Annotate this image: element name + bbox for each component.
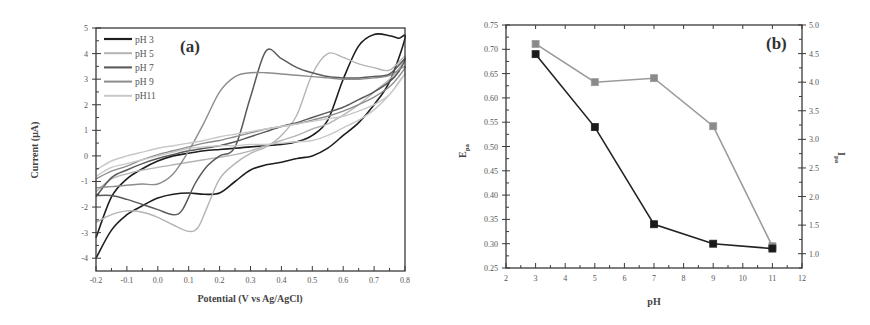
y-tick-label-left: 0.30 [484, 240, 498, 249]
data-point-marker [532, 40, 539, 47]
y-tick-label-left: 0.50 [484, 143, 498, 152]
x-tick-label: 5 [593, 274, 597, 283]
y-axis-ticks: -4-3-2-1012345 [81, 24, 101, 263]
y-tick-label: 2 [84, 101, 88, 110]
y-tick-label: 3 [84, 75, 88, 84]
y-tick-label: 4 [84, 50, 88, 59]
x-tick-label: 0.0 [153, 276, 163, 285]
x-tick-label: 0.2 [215, 276, 225, 285]
y-tick-label-left: 0.75 [484, 21, 498, 30]
x-tick-label: 0.5 [307, 276, 317, 285]
x-axis-ticks: -0.2-0.10.00.10.20.30.40.50.60.70.8 [90, 266, 410, 285]
x-tick-label: -0.1 [121, 276, 134, 285]
svg-text:pH 5: pH 5 [135, 49, 154, 59]
y-tick-label: 5 [84, 24, 88, 33]
y-tick-label-left: 0.60 [484, 94, 498, 103]
legend: pH 3pH 5pH 7pH 9pH11 [104, 35, 156, 102]
data-point-marker [532, 51, 539, 58]
y-tick-label-left: 0.55 [484, 118, 498, 127]
y-tick-label-right: 1.5 [809, 221, 819, 230]
svg-text:pH11: pH11 [135, 91, 156, 101]
data-point-marker [710, 240, 717, 247]
legend-item: pH 5 [104, 49, 154, 59]
y-axis-right-ticks: 1.01.52.02.53.03.54.04.55.0 [798, 21, 819, 268]
x-tick-label: 10 [739, 274, 747, 283]
y-tick-label-right: 4.0 [809, 78, 819, 87]
x-tick-label: 0.6 [338, 276, 348, 285]
x-tick-label: 9 [711, 274, 715, 283]
data-lines [532, 40, 776, 252]
y-tick-label-left: 0.35 [484, 215, 498, 224]
x-tick-label: 3 [534, 274, 538, 283]
x-tick-label: 0.8 [400, 276, 410, 285]
legend-item: pH11 [104, 91, 156, 101]
x-tick-label: 0.7 [369, 276, 379, 285]
data-point-marker [651, 221, 658, 228]
legend-item: pH 7 [104, 63, 154, 73]
y-tick-label-right: 2.5 [809, 164, 819, 173]
y-tick-label-right: 4.5 [809, 50, 819, 59]
x-tick-label: 0.4 [276, 276, 286, 285]
y-tick-label-right: 3.0 [809, 135, 819, 144]
legend-item: pH 3 [104, 35, 154, 45]
y-tick-label: -4 [81, 254, 88, 263]
y-axis-right-title: Ipa [833, 152, 847, 164]
y-tick-label-left: 0.25 [484, 264, 498, 273]
x-axis-ticks: 23456789101112 [504, 25, 806, 283]
cv-curve-ph11 [96, 74, 405, 177]
x-tick-label: 0.3 [246, 276, 256, 285]
y-tick-label-right: 5.0 [809, 21, 819, 30]
y-tick-label: -2 [81, 203, 88, 212]
y-tick-label-right: 3.5 [809, 107, 819, 116]
y-tick-label-right: 2.0 [809, 193, 819, 202]
line-i-pa [536, 44, 773, 246]
svg-text:pH 3: pH 3 [135, 35, 154, 45]
y-axis-title: Current (μA) [29, 122, 41, 179]
y-tick-label-left: 0.70 [484, 45, 498, 54]
x-axis-title: Potential (V vs Ag/AgCl) [197, 293, 302, 305]
y-tick-label: 0 [84, 152, 88, 161]
x-axis-title: pH [647, 296, 661, 307]
data-point-marker [591, 124, 598, 131]
y-tick-label: 1 [84, 126, 88, 135]
y-tick-label: -1 [81, 177, 88, 186]
panel-label-b: (b) [766, 34, 787, 53]
y-tick-label: -3 [81, 229, 88, 238]
chart-peak-vs-ph: 23456789101112 0.250.300.350.400.450.500… [457, 21, 847, 307]
data-point-marker [651, 75, 658, 82]
x-tick-label: 7 [652, 274, 656, 283]
x-tick-label: 2 [504, 274, 508, 283]
legend-item: pH 9 [104, 77, 154, 87]
plot-frame [506, 25, 802, 268]
data-point-marker [769, 245, 776, 252]
line-e-pa [536, 54, 773, 248]
y-tick-label-left: 0.65 [484, 70, 498, 79]
data-point-marker [591, 79, 598, 86]
x-tick-label: 4 [563, 274, 567, 283]
figure: -0.2-0.10.00.10.20.30.40.50.60.70.8 -4-3… [0, 0, 870, 325]
y-tick-label-right: 1.0 [809, 250, 819, 259]
y-tick-label-left: 0.45 [484, 167, 498, 176]
x-tick-label: 11 [769, 274, 777, 283]
chart-cyclic-voltammetry: -0.2-0.10.00.10.20.30.40.50.60.70.8 -4-3… [29, 24, 410, 305]
x-tick-label: 8 [682, 274, 686, 283]
x-tick-label: 0.1 [184, 276, 194, 285]
x-tick-label: -0.2 [90, 276, 103, 285]
panel-label-a: (a) [180, 37, 200, 56]
x-tick-label: 12 [798, 274, 806, 283]
svg-text:pH 9: pH 9 [135, 77, 154, 87]
svg-text:pH 7: pH 7 [135, 63, 154, 73]
y-axis-left-title: Epa [457, 143, 471, 158]
y-tick-label-left: 0.40 [484, 191, 498, 200]
x-tick-label: 6 [622, 274, 626, 283]
data-point-marker [710, 123, 717, 130]
